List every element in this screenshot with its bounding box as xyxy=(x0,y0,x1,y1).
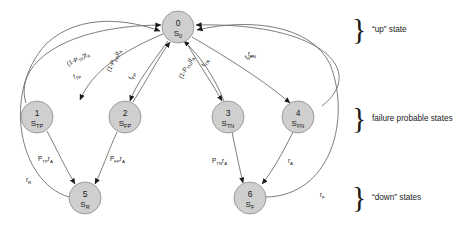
brace-up-glyph: } xyxy=(352,12,366,45)
edge-label-e3_6: PTNrA xyxy=(212,157,227,166)
node-number-s5: 5 xyxy=(83,189,88,199)
edge-s0-to-s1 xyxy=(80,34,163,100)
edge-label-e1_0_ret: fTP xyxy=(72,71,82,81)
diagram-canvas: 0S01STP2SFP3STN4SFN5SR6SF (1-PTP)fAfTP(1… xyxy=(0,0,475,233)
edge-label-e0_3_fwd: (1-PTN)fA xyxy=(177,55,197,81)
brace-up: }“up” state xyxy=(352,12,407,45)
node-number-s3: 3 xyxy=(226,108,231,118)
node-s4[interactable]: 4SFN xyxy=(282,101,314,133)
edge-label-e6_0_ret: rFN xyxy=(248,50,256,59)
edge-s0-to-s4 xyxy=(192,37,290,103)
brace-down-glyph: } xyxy=(352,180,366,213)
edge-label-e4_6: rA xyxy=(288,157,293,166)
edge-s2-to-s0 xyxy=(133,42,170,102)
brace-down: }“down” states xyxy=(352,180,421,213)
node-number-s1: 1 xyxy=(35,108,40,118)
edge-s0-to-s3 xyxy=(186,42,222,101)
node-s1[interactable]: 1STP xyxy=(21,101,53,133)
brace-layer: }“up” state}failure probable states}“dow… xyxy=(352,12,453,213)
edge-s1-to-s0 xyxy=(24,25,161,103)
edge-label-e6_0: rF xyxy=(320,191,325,200)
node-number-s2: 2 xyxy=(123,108,128,118)
edge-label-e0_1_fwd: (1-PTP)fA xyxy=(65,50,91,68)
edge-label-e5_0: rR xyxy=(26,176,31,185)
node-s0[interactable]: 0S0 xyxy=(162,11,194,43)
edge-s3-to-s6 xyxy=(232,132,243,183)
brace-failure-glyph: } xyxy=(352,101,366,134)
edge-label-e0_2_fwd: (1-PFP)fA xyxy=(105,48,124,74)
edge-label-e2_5: PFPrA xyxy=(110,155,125,164)
node-number-s4: 4 xyxy=(296,108,301,118)
node-number-s6: 6 xyxy=(248,189,253,199)
brace-up-label: “up” state xyxy=(372,25,407,34)
edge-label-e1_5: PTPrA xyxy=(38,155,53,164)
node-number-s0: 0 xyxy=(176,18,181,28)
node-s5[interactable]: 5SR xyxy=(69,182,101,214)
edge-s0-to-s2 xyxy=(130,41,168,101)
brace-failure-label: failure probable states xyxy=(372,114,453,123)
brace-down-label: “down” states xyxy=(372,193,421,202)
node-s6[interactable]: 6SF xyxy=(234,182,266,214)
state-transition-diagram: 0S01STP2SFP3STN4SFN5SR6SF (1-PTP)fAfTP(1… xyxy=(0,0,475,233)
node-s3[interactable]: 3STN xyxy=(212,101,244,133)
edge-s1-to-s5 xyxy=(47,131,75,184)
node-s2[interactable]: 2SFP xyxy=(109,101,141,133)
brace-failure: }failure probable states xyxy=(352,101,453,134)
edge-label-e2_0_ret: fFP xyxy=(127,71,138,82)
